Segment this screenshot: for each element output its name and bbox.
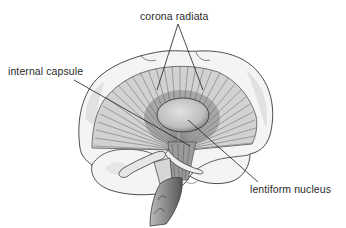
label-internal-capsule: internal capsule — [8, 66, 83, 77]
label-corona-radiata: corona radiata — [140, 11, 209, 22]
lentiform-nucleus-shape — [157, 98, 209, 132]
label-lentiform-nucleus: lentiform nucleus — [250, 184, 331, 195]
